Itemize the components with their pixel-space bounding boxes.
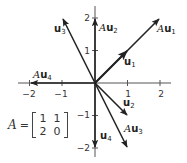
y-tick-label: −1 (77, 110, 90, 120)
y-tick-label: −2 (77, 143, 90, 153)
matrix-definition: A = 1 1 2 0 (8, 112, 68, 138)
y-tick-label: 2 (84, 13, 90, 23)
vector-diagram: −2 −1 1 2 2 1 −1 −2 Au1 u1 Au2 u2 (0, 0, 187, 163)
matrix-cell: 2 (36, 125, 50, 138)
x-tick-label: −1 (54, 89, 67, 99)
matrix-cell: 1 (50, 112, 64, 125)
y-tick-label: 1 (84, 46, 90, 56)
label-Au2: Au2 (98, 22, 118, 35)
matrix-brackets: 1 1 2 0 (32, 112, 68, 138)
x-tick-label: −2 (22, 89, 35, 99)
x-tick-label: 2 (158, 89, 164, 99)
label-u3: u3 (54, 23, 66, 36)
equals-sign: = (20, 119, 29, 132)
matrix-cell: 0 (50, 125, 64, 138)
label-u2: u2 (123, 97, 135, 110)
matrix-name: A (8, 118, 17, 132)
label-Au3: Au3 (123, 123, 143, 136)
vector-u1 (95, 51, 127, 83)
label-Au1: Au1 (156, 23, 176, 36)
label-u1: u1 (124, 56, 136, 69)
vector-u3 (63, 19, 95, 83)
matrix-cell: 1 (36, 112, 50, 125)
label-u4: u4 (100, 130, 112, 143)
label-Au4: Au4 (32, 69, 52, 82)
